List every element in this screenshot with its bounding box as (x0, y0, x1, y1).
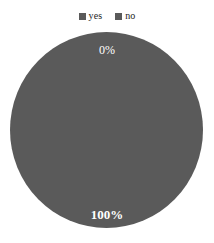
chart-legend: yes no (0, 9, 214, 23)
pie-chart-plot-area (10, 32, 203, 228)
legend-swatch-yes-icon (79, 13, 86, 20)
legend-label-no: no (125, 11, 135, 21)
pie-value-label-no: 100% (0, 208, 214, 221)
pie-value-label-yes: 0% (0, 44, 214, 56)
pie-slice-no[interactable] (10, 32, 203, 228)
legend-item-no[interactable]: no (115, 11, 135, 21)
legend-item-yes[interactable]: yes (79, 11, 103, 21)
pie-chart-figure: yes no 0% 100% (0, 0, 214, 243)
legend-swatch-no-icon (115, 13, 122, 20)
legend-label-yes: yes (89, 11, 103, 21)
